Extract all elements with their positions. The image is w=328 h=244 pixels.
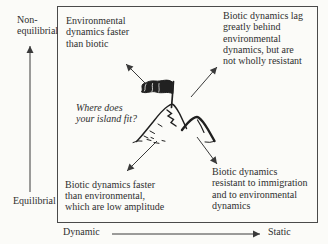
text-line: Non- <box>17 15 58 26</box>
text-line: than biotic <box>66 38 129 49</box>
x-axis-right-label: Static <box>268 227 291 238</box>
y-axis-bottom-label: Equilibrial <box>13 196 56 207</box>
text-line: greatly behind <box>223 21 303 32</box>
text-line: Environmental <box>66 15 129 26</box>
quadrant-text-bottom-right: Biotic dynamics resistant to immigration… <box>212 166 308 212</box>
center-question: Where does your island fit? <box>76 102 137 124</box>
text-line: equilibrial <box>17 26 58 37</box>
text-line: dynamics <box>212 200 308 211</box>
text-line: and to environmental <box>212 189 308 200</box>
text-line: environmental <box>223 33 303 44</box>
quadrant-text-top-right: Biotic dynamics lag greatly behind envir… <box>223 10 303 66</box>
y-axis-top-label: Non- equilibrial <box>17 15 58 36</box>
text-line: your island fit? <box>76 113 137 124</box>
text-line: dynamics faster <box>66 26 129 37</box>
text-line: Where does <box>76 102 137 113</box>
x-axis-left-label: Dynamic <box>63 227 100 238</box>
text-line: not wholly resistant <box>223 55 303 66</box>
text-line: which are low amplitude <box>65 202 164 213</box>
text-line: dynamics, but are <box>223 44 303 55</box>
island-biogeography-quadrant-figure: Non- equilibrial Equilibrial Dynamic Sta… <box>0 0 328 244</box>
quadrant-text-bottom-left: Biotic dynamics faster than environmenta… <box>65 180 164 213</box>
text-line: Biotic dynamics <box>212 166 308 177</box>
text-line: resistant to immigration <box>212 177 308 188</box>
text-line: Biotic dynamics lag <box>223 10 303 21</box>
quadrant-text-top-left: Environmental dynamics faster than bioti… <box>66 15 129 49</box>
